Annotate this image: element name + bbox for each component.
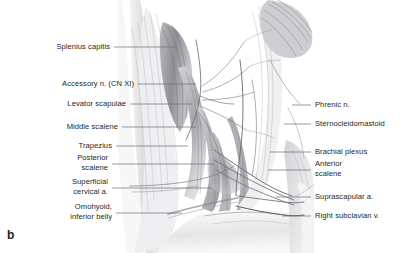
label-line: Splenius capitis (56, 42, 110, 52)
label-line: Sternocleidomastoid (315, 119, 385, 129)
label-sternocleidomastoid: Sternocleidomastoid (315, 119, 385, 129)
label-trapezius: Trapezius (78, 141, 112, 151)
label-phrenic-nerve: Phrenic n. (315, 100, 350, 110)
label-line: inferior belly (70, 212, 112, 222)
label-suprascapular-artery: Suprascapular a. (315, 192, 373, 202)
label-line: Brachial plexus (315, 147, 367, 157)
label-line: Anterior (315, 159, 342, 169)
anatomy-figure: Splenius capitisAccessory n. (CN XI)Leva… (0, 0, 403, 253)
label-middle-scalene: Middle scalene (67, 122, 118, 132)
label-line: scalene (77, 163, 108, 173)
figure-marker: b (7, 228, 14, 242)
label-levator-scapulae: Levator scapulae (67, 99, 126, 109)
label-brachial-plexus: Brachial plexus (315, 147, 367, 157)
label-superficial-cervical-artery: Superficialcervical a. (72, 177, 108, 197)
label-accessory-nerve: Accessory n. (CN XI) (62, 79, 134, 89)
label-line: Trapezius (78, 141, 112, 151)
label-line: Superficial (72, 177, 108, 187)
label-line: scalene (315, 169, 342, 179)
label-line: Accessory n. (CN XI) (62, 79, 134, 89)
label-right-subclavian-vein: Right subclavian v. (315, 211, 379, 221)
label-line: Right subclavian v. (315, 211, 379, 221)
label-line: Phrenic n. (315, 100, 350, 110)
label-omohyoid-inferior-belly: Omohyoid,inferior belly (70, 202, 112, 222)
label-line: Posterior (77, 153, 108, 163)
label-anterior-scalene: Anteriorscalene (315, 159, 342, 179)
label-line: cervical a. (72, 187, 108, 197)
label-splenius-capitis: Splenius capitis (56, 42, 110, 52)
label-line: Suprascapular a. (315, 192, 373, 202)
label-posterior-scalene: Posteriorscalene (77, 153, 108, 173)
label-line: Middle scalene (67, 122, 118, 132)
label-line: Levator scapulae (67, 99, 126, 109)
label-line: Omohyoid, (70, 202, 112, 212)
